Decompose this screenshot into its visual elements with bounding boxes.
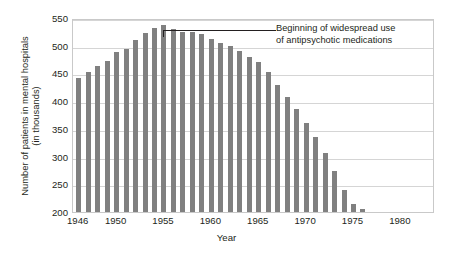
y-tick-label: 350 — [38, 125, 68, 135]
bar — [180, 32, 185, 212]
annotation-line2: of antipsychotic medications — [276, 35, 395, 47]
bar — [332, 171, 337, 212]
bar — [285, 97, 290, 212]
bar — [124, 49, 129, 213]
bar — [199, 34, 204, 212]
y-axis-label-line1: Number of patients in mental hospitals — [19, 36, 30, 195]
y-tick-label: 500 — [38, 42, 68, 52]
bar — [256, 62, 261, 212]
x-tick-label: 1980 — [380, 215, 420, 226]
plot-area — [72, 19, 434, 213]
y-axis-label-line2: (in thousands) — [30, 16, 41, 216]
y-tick-label: 250 — [38, 180, 68, 190]
bar — [342, 190, 347, 212]
bar — [294, 109, 299, 212]
x-tick-label: 1965 — [238, 215, 278, 226]
y-axis-label: Number of patients in mental hospitals (… — [19, 16, 41, 216]
bar-series — [73, 20, 433, 212]
x-axis-label: Year — [0, 232, 453, 243]
bar — [133, 40, 138, 212]
bar — [105, 61, 110, 212]
x-tick-label: 1975 — [333, 215, 373, 226]
annotation-leader-line — [163, 30, 276, 31]
annotation-line1: Beginning of widespread use — [276, 23, 395, 33]
bar — [86, 72, 91, 212]
bar — [171, 29, 176, 212]
bar — [143, 33, 148, 212]
bar — [247, 57, 252, 212]
bar — [304, 123, 309, 212]
x-tick-label: 1955 — [143, 215, 183, 226]
y-tick-label: 450 — [38, 69, 68, 79]
bar — [114, 52, 119, 212]
bar — [152, 28, 157, 212]
bar-chart: Number of patients in mental hospitals (… — [0, 0, 453, 267]
x-tick-label: 1970 — [285, 215, 325, 226]
bar — [351, 204, 356, 212]
bar — [323, 153, 328, 212]
y-tick-label: 550 — [38, 14, 68, 24]
bar — [218, 43, 223, 212]
bar — [360, 209, 365, 212]
bar — [266, 72, 271, 212]
bar — [95, 66, 100, 212]
x-tick-label: 1960 — [190, 215, 230, 226]
annotation-text: Beginning of widespread use of antipsych… — [276, 23, 395, 46]
bar — [190, 32, 195, 212]
bar — [228, 46, 233, 212]
y-tick-label: 300 — [38, 153, 68, 163]
bar — [161, 25, 166, 212]
bar — [76, 78, 81, 212]
annotation-leader-tick — [163, 30, 164, 37]
bar — [237, 51, 242, 212]
y-tick-label: 400 — [38, 97, 68, 107]
bar — [275, 85, 280, 212]
bar — [313, 137, 318, 212]
x-tick-label: 1950 — [96, 215, 136, 226]
x-tick-label: 1946 — [58, 215, 98, 226]
bar — [209, 39, 214, 212]
